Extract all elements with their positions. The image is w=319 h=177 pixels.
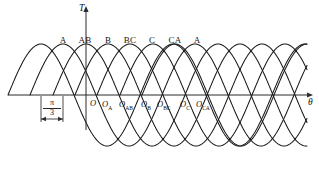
- origin-label-subscript: CA: [202, 105, 210, 111]
- fraction-denominator: 3: [43, 109, 61, 117]
- origin-label-b: OB: [141, 100, 151, 111]
- theta-axis-label: θ: [308, 98, 313, 108]
- origin-label-a: OA: [102, 100, 112, 111]
- origin-label-ca: OCA: [196, 100, 210, 111]
- origin-label-subscript: A: [108, 105, 112, 111]
- peak-label-2: B: [105, 36, 111, 45]
- origin-label-subscript: C: [186, 105, 190, 111]
- figure-canvas: [0, 0, 319, 177]
- peak-label-4: C: [149, 36, 155, 45]
- origin-label-subscript: BC: [163, 105, 170, 111]
- peak-label-6: A: [194, 36, 201, 45]
- origin-label-c: OC: [180, 100, 190, 111]
- peak-label-5: CA: [169, 36, 182, 45]
- origin-label-o: O: [90, 99, 96, 108]
- origin-label-ab: OAB: [119, 100, 133, 111]
- origin-label-subscript: B: [147, 105, 151, 111]
- origin-label-bc: OBC: [157, 100, 171, 111]
- peak-label-1: AB: [79, 36, 92, 45]
- origin-label-subscript: AB: [125, 105, 133, 111]
- peak-label-3: BC: [124, 36, 136, 45]
- torque-axis-label: T: [79, 4, 84, 14]
- fraction-numerator: π: [43, 99, 61, 107]
- pi-over-three-label: π 3: [43, 99, 61, 118]
- peak-label-0: A: [60, 36, 67, 45]
- origin-label-base: O: [90, 98, 96, 108]
- waveform-figure: AABBBCCCAA OOAOABOBOBCOCOCA T θ π 3: [0, 0, 319, 177]
